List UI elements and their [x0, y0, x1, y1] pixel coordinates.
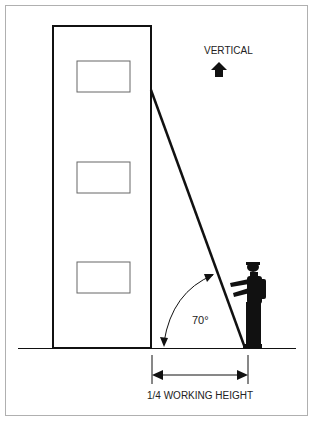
- base-label: 1/4 WORKING HEIGHT: [147, 390, 253, 401]
- angle-label: 70°: [192, 314, 209, 326]
- vertical-label: VERTICAL: [204, 45, 253, 56]
- ladder-angle-diagram: [0, 0, 313, 422]
- outer-frame: [6, 6, 308, 416]
- building: [53, 26, 151, 348]
